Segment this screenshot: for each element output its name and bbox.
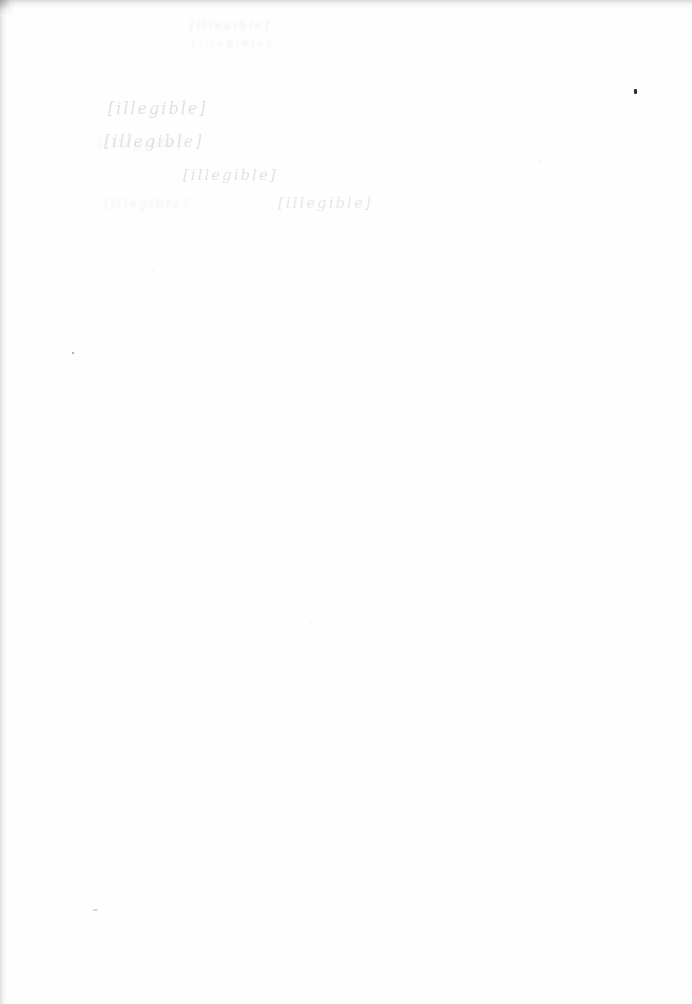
stray-mark-1: [illegible] bbox=[98, 136, 183, 151]
body-line-4: [illegible] bbox=[278, 194, 373, 212]
ink-speck-main bbox=[634, 89, 637, 94]
body-line-1: [illegible] bbox=[108, 99, 208, 118]
stray-mark-2: [illegible] bbox=[104, 196, 189, 211]
scan-shadow-corner bbox=[0, 0, 14, 14]
header-line-1: [illegible] bbox=[190, 19, 271, 32]
ink-speck-faint bbox=[93, 909, 98, 911]
body-line-3: [illegible] bbox=[183, 166, 278, 184]
scan-shadow-top bbox=[0, 0, 692, 9]
ink-speck-secondary bbox=[72, 352, 74, 354]
scanned-page: [illegible] [illegible] [illegible] [ill… bbox=[0, 0, 692, 1004]
header-line-2: [illegible] bbox=[192, 37, 273, 48]
scan-shadow-left bbox=[0, 0, 8, 1004]
